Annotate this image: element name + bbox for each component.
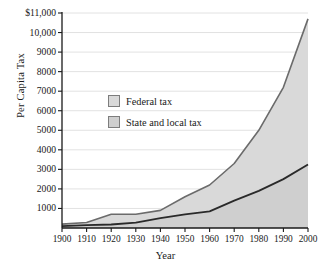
- per-capita-tax-chart: Per Capita Tax Year $11,00010,0009000800…: [0, 0, 331, 267]
- x-tick-label: 2000: [292, 234, 324, 244]
- legend-item-federal-tax: Federal tax: [108, 95, 172, 107]
- legend-item-state-and-local-tax: State and local tax: [108, 116, 202, 128]
- y-tick-label: 4000: [0, 144, 56, 155]
- legend-label-state-and-local-tax: State and local tax: [126, 117, 202, 128]
- y-tick-label: 6000: [0, 105, 56, 116]
- legend-swatch-state-and-local-tax: [108, 116, 120, 128]
- legend-label-federal-tax: Federal tax: [126, 96, 172, 107]
- legend-swatch-federal-tax: [108, 95, 120, 107]
- y-tick-label: 5000: [0, 124, 56, 135]
- y-tick-label: 2000: [0, 183, 56, 194]
- y-tick-label: $11,000: [0, 7, 56, 18]
- x-axis-title: Year: [0, 250, 331, 261]
- y-tick-label: 8000: [0, 66, 56, 77]
- y-tick-label: 7000: [0, 85, 56, 96]
- y-tick-label: 1000: [0, 202, 56, 213]
- y-tick-label: 3000: [0, 163, 56, 174]
- y-tick-label: 9000: [0, 46, 56, 57]
- y-tick-label: 10,000: [0, 27, 56, 38]
